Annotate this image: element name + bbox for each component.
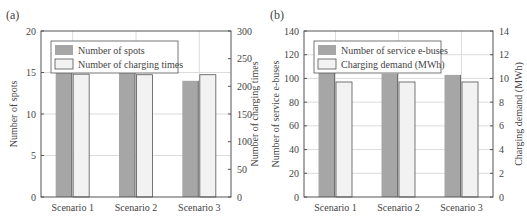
y-tick-label: 140 xyxy=(284,26,299,37)
legend-swatch-series-1 xyxy=(55,45,73,55)
y-right-tick-label: 0 xyxy=(499,192,504,203)
panel-label: (a) xyxy=(6,8,19,22)
bar-series-2 xyxy=(200,75,216,197)
bar-series-2 xyxy=(399,82,415,197)
bar-series-1 xyxy=(319,71,335,197)
x-tick-label: Scenario 2 xyxy=(377,202,420,213)
y-right-tick-label: 50 xyxy=(237,164,247,175)
legend-swatch-series-2 xyxy=(318,59,336,69)
legend-label-series-1: Number of service e-buses xyxy=(341,45,448,56)
bar-series-1 xyxy=(56,73,72,198)
bar-series-1 xyxy=(182,81,198,197)
y-tick-label: 10 xyxy=(26,109,36,120)
y-tick-label: 120 xyxy=(284,49,299,60)
chart-panel-a: (a)Scenario 1Scenario 2Scenario 30510152… xyxy=(0,0,264,220)
y-tick-label: 20 xyxy=(289,168,299,179)
y-right-tick-label: 0 xyxy=(237,192,242,203)
y-right-tick-label: 2 xyxy=(499,168,504,179)
bar-series-1 xyxy=(382,74,398,197)
bar-series-2 xyxy=(462,82,478,197)
y-right-axis-label: Number of charging times xyxy=(249,61,260,166)
x-tick-label: Scenario 3 xyxy=(440,202,483,213)
y-tick-label: 0 xyxy=(31,192,36,203)
y-right-tick-label: 10 xyxy=(499,73,509,84)
legend-swatch-series-1 xyxy=(318,45,336,55)
y-tick-label: 40 xyxy=(289,144,299,155)
y-right-tick-label: 4 xyxy=(499,144,504,155)
bar-series-1 xyxy=(445,75,461,197)
legend-label-series-2: Charging demand (MWh) xyxy=(341,59,445,71)
chart-panel-b: (b)Scenario 1Scenario 2Scenario 30204060… xyxy=(263,0,527,220)
bar-series-1 xyxy=(119,73,135,198)
chart-b-svg: (b)Scenario 1Scenario 2Scenario 30204060… xyxy=(263,0,527,220)
y-tick-label: 0 xyxy=(294,192,299,203)
y-right-tick-label: 300 xyxy=(237,26,252,37)
x-tick-label: Scenario 1 xyxy=(51,202,94,213)
y-right-tick-label: 12 xyxy=(499,49,509,60)
y-tick-label: 15 xyxy=(26,67,36,78)
panel-label: (b) xyxy=(270,8,284,22)
y-axis-label: Number of service e-buses xyxy=(270,60,281,167)
bar-series-2 xyxy=(137,75,153,197)
chart-a-svg: (a)Scenario 1Scenario 2Scenario 30510152… xyxy=(0,0,264,220)
y-axis-label: Number of spots xyxy=(8,81,19,148)
y-right-tick-label: 8 xyxy=(499,97,504,108)
x-tick-label: Scenario 1 xyxy=(314,202,357,213)
y-right-tick-label: 6 xyxy=(499,120,504,131)
y-tick-label: 20 xyxy=(26,26,36,37)
x-tick-label: Scenario 3 xyxy=(178,202,221,213)
legend-label-series-1: Number of spots xyxy=(78,45,145,56)
x-tick-label: Scenario 2 xyxy=(115,202,158,213)
legend-label-series-2: Number of charging times xyxy=(78,59,183,70)
y-tick-label: 5 xyxy=(31,150,36,161)
y-tick-label: 80 xyxy=(289,97,299,108)
y-right-axis-label: Charging demand (MWh) xyxy=(513,62,525,166)
bar-series-2 xyxy=(73,74,89,197)
legend-swatch-series-2 xyxy=(55,59,73,69)
y-tick-label: 60 xyxy=(289,120,299,131)
y-right-tick-label: 14 xyxy=(499,26,509,37)
bar-series-2 xyxy=(336,82,352,197)
y-tick-label: 100 xyxy=(284,73,299,84)
